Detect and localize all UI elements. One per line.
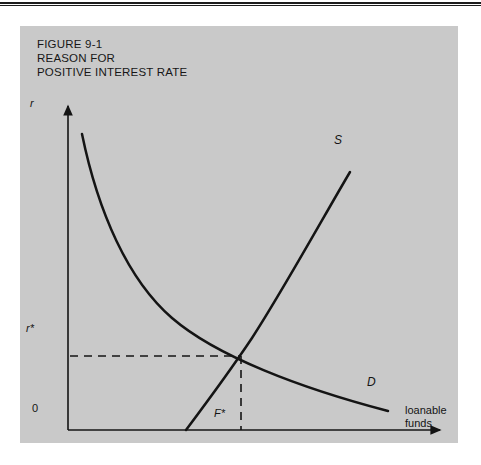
demand-curve bbox=[82, 134, 388, 411]
divider-line-lower bbox=[0, 5, 481, 6]
divider-line-upper bbox=[0, 2, 481, 4]
origin-label: 0 bbox=[32, 402, 38, 414]
supply-curve-label: S bbox=[334, 133, 342, 147]
x-axis-label: loanable funds bbox=[405, 404, 447, 429]
figure-panel: FIGURE 9-1 REASON FOR POSITIVE INTEREST … bbox=[20, 26, 458, 443]
x-axis-label-line-1: loanable bbox=[405, 404, 447, 417]
demand-curve-label: D bbox=[367, 375, 376, 389]
equilibrium-rate-label: r* bbox=[26, 322, 34, 334]
supply-demand-plot bbox=[20, 26, 458, 443]
equilibrium-quantity-label: F* bbox=[214, 407, 225, 419]
supply-curve bbox=[186, 172, 350, 430]
x-axis-label-line-2: funds bbox=[405, 417, 447, 430]
y-axis-label: r bbox=[30, 97, 34, 109]
top-divider-rule bbox=[0, 0, 481, 8]
